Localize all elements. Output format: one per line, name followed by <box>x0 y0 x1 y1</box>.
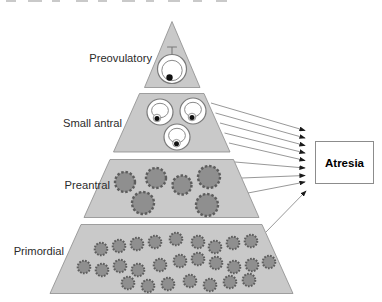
preantral-follicle <box>115 172 135 192</box>
primordial-follicle <box>227 237 240 250</box>
primordial-follicle <box>131 238 144 251</box>
preantral-follicle <box>132 192 154 214</box>
primordial-follicle <box>96 264 109 277</box>
tier-primordial <box>50 225 293 294</box>
primordial-follicle <box>162 278 175 291</box>
tier-small-antral <box>114 94 231 153</box>
atresia-box-label: Atresia <box>325 157 365 169</box>
primordial-follicle <box>114 260 127 273</box>
atresia-arrow <box>225 133 306 153</box>
small-antral-follicle <box>180 98 206 124</box>
label-preovulatory: Preovulatory <box>89 52 152 64</box>
primordial-follicle <box>95 243 108 256</box>
primordial-follicle <box>192 253 205 266</box>
primordial-follicle <box>142 280 155 293</box>
primordial-follicle <box>132 264 145 277</box>
primordial-follicle <box>184 275 197 288</box>
atresia-arrow <box>242 176 305 179</box>
primordial-follicle <box>246 259 259 272</box>
primordial-follicle <box>113 240 126 253</box>
atresia-arrow <box>266 191 306 232</box>
cropped-caption-remnants <box>6 0 227 2</box>
atresia-arrow <box>229 143 305 161</box>
primordial-follicle <box>224 276 237 289</box>
primordial-follicle <box>192 236 205 249</box>
primordial-follicle <box>228 261 241 274</box>
atresia-box: Atresia <box>316 142 374 184</box>
preantral-follicle <box>196 194 218 216</box>
label-preantral: Preantral <box>65 179 110 191</box>
primordial-follicle <box>78 261 91 274</box>
primordial-follicle <box>263 256 276 269</box>
primordial-follicle <box>154 259 167 272</box>
atresia-arrow <box>248 182 305 193</box>
primordial-follicle <box>122 277 135 290</box>
follicle-pyramid-diagram: Preovulatory Small antral Preantral Prim… <box>0 0 382 302</box>
primordial-follicle <box>210 257 223 270</box>
primordial-follicle <box>209 241 222 254</box>
primordial-follicle <box>245 235 258 248</box>
small-antral-follicle <box>147 99 173 125</box>
atresia-arrow <box>211 103 305 131</box>
tier-preovulatory <box>145 22 201 88</box>
label-small-antral: Small antral <box>63 117 122 129</box>
primordial-follicle <box>174 255 187 268</box>
primordial-follicle <box>243 274 256 287</box>
label-primordial: Primordial <box>14 245 64 257</box>
atresia-arrow <box>235 162 305 168</box>
preantral-follicle <box>198 166 220 188</box>
tier-preantral <box>84 160 259 218</box>
preantral-follicle <box>146 168 166 188</box>
preantral-tier-shape <box>84 160 259 218</box>
primordial-follicle <box>149 236 162 249</box>
primordial-follicle <box>170 233 183 246</box>
small-antral-follicle <box>164 124 190 150</box>
preantral-follicle <box>173 176 192 195</box>
primordial-follicle <box>204 279 217 292</box>
